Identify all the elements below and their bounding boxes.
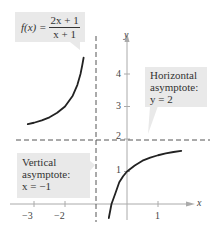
h-callout-line-2: asymptote: [150, 81, 207, 93]
x-axis-arrow-icon [186, 202, 195, 207]
x-tick-label-neg3: −3 [22, 210, 33, 221]
function-fraction: 2x + 1 x + 1 [49, 15, 79, 40]
curve-right-branch [109, 151, 181, 218]
y-tick-label-2: 2 [116, 130, 121, 141]
function-denominator: x + 1 [53, 28, 76, 40]
v-callout-line-2: asymptote: [22, 168, 90, 180]
curve-left-branch [28, 58, 84, 124]
function-numerator: 2x + 1 [49, 15, 79, 28]
x-tick-label-neg2: −2 [54, 210, 65, 221]
h-callout-line-1: Horizontal [150, 69, 207, 81]
x-axis-label: x [197, 197, 201, 208]
h-callout-line-3: y = 2 [150, 93, 207, 105]
v-callout-line-3: x = −1 [22, 180, 90, 192]
y-axis-label: y [124, 29, 128, 40]
h-callout-pointer [148, 106, 158, 134]
function-label: f(x) = [21, 21, 46, 33]
y-tick-label-1: 1 [116, 164, 121, 175]
function-callout: f(x) = 2x + 1 x + 1 [15, 12, 85, 42]
horizontal-asymptote-callout: Horizontal asymptote: y = 2 [145, 67, 207, 107]
x-tick-label-1: 1 [155, 210, 160, 221]
vertical-asymptote-callout: Vertical asymptote: x = −1 [17, 153, 90, 198]
y-tick-label-3: 3 [116, 100, 121, 111]
fx-callout-pointer [70, 42, 80, 50]
y-tick-label-4: 4 [116, 68, 121, 79]
v-callout-line-1: Vertical [22, 156, 90, 168]
